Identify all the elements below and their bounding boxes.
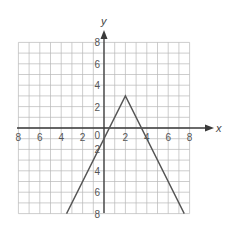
y-tick-label: 6 — [94, 187, 100, 198]
y-tick-label: 6 — [94, 59, 100, 70]
x-tick-label: 6 — [165, 132, 171, 143]
coordinate-plane: x y 86422468864224680 — [0, 0, 229, 231]
x-axis-label: x — [215, 122, 222, 134]
x-tick-label: 8 — [16, 132, 22, 143]
y-axis-label: y — [100, 15, 108, 27]
y-tick-label: 2 — [94, 144, 100, 155]
x-tick-label: 2 — [123, 132, 129, 143]
x-tick-label: 4 — [58, 132, 64, 143]
y-tick-label: 4 — [94, 80, 100, 91]
y-tick-label: 4 — [94, 166, 100, 177]
x-tick-label: 6 — [37, 132, 43, 143]
y-axis-arrow-icon — [101, 30, 108, 39]
y-tick-label: 8 — [94, 37, 100, 48]
x-tick-label: 2 — [80, 132, 86, 143]
x-axis-arrow-icon — [205, 125, 214, 132]
y-tick-label: 2 — [94, 102, 100, 113]
origin-label: 0 — [94, 130, 100, 141]
x-tick-label: 8 — [187, 132, 193, 143]
y-tick-label: 8 — [94, 209, 100, 220]
